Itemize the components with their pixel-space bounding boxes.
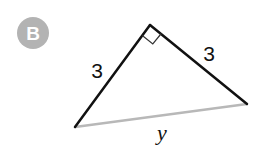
badge-label: B [26, 23, 40, 44]
right-leg-label: 3 [203, 42, 215, 65]
left-leg-label: 3 [91, 59, 103, 82]
right-angle-marker [142, 34, 161, 45]
triangle-diagram: B 3 3 y [0, 0, 263, 156]
left-leg [75, 25, 150, 127]
problem-badge: B [17, 17, 49, 49]
problem-figure: B 3 3 y [0, 0, 263, 156]
right-leg [150, 25, 247, 104]
hypotenuse-label: y [155, 120, 167, 145]
